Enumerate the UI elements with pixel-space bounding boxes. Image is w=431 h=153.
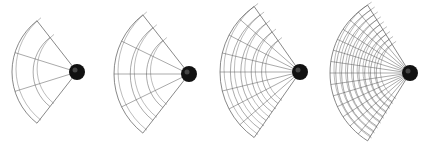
- wireframe-fan-medium: [212, 0, 320, 153]
- wireframe-panel-4: [322, 0, 430, 153]
- wireframe-fan-low: [105, 0, 213, 153]
- wireframe-panel-3: [212, 0, 320, 153]
- sphere-hub-icon: [69, 64, 85, 80]
- sphere-hub-icon: [181, 66, 197, 82]
- sphere-hub-icon: [402, 65, 418, 81]
- sphere-hub-icon: [292, 64, 308, 80]
- wireframe-panel-2: [105, 0, 213, 153]
- wireframe-fan-dense: [322, 0, 430, 153]
- wireframe-panel-1: [0, 0, 108, 153]
- wireframe-fan-sparse: [0, 0, 108, 153]
